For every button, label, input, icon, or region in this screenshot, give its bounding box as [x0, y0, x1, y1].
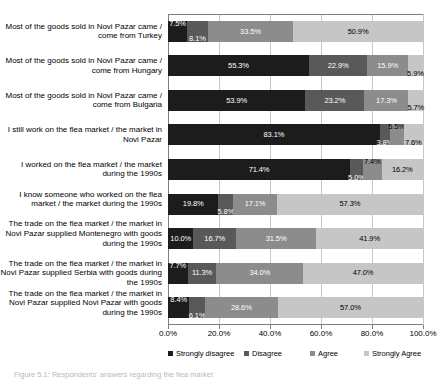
bar-segment: 19.8%	[168, 194, 218, 215]
bar-segment: 17.1%	[233, 194, 277, 215]
bar-segment-label: 22.9%	[328, 62, 349, 70]
chart-legend: Strongly disagreeDisagreeAgreeStrongly A…	[168, 349, 439, 363]
bar-segment: 33.5%	[208, 21, 293, 42]
x-axis-tick-labels: 0.0%20.0%40.0%60.0%80.0%100.0%	[168, 329, 423, 341]
bar-segment-label: 33.5%	[240, 28, 261, 36]
bar-segment: 17.3%	[364, 90, 408, 111]
bar-segment: 23.2%	[305, 90, 364, 111]
bar-segment: 10.0%	[168, 228, 193, 249]
bar-segment: 28.6%	[205, 297, 278, 318]
bar-row: 10.0%16.7%31.5%41.9%	[168, 228, 423, 249]
x-tick-mark	[423, 325, 424, 329]
legend-label: Strongly disagree	[176, 349, 234, 358]
x-tick-label: 20.0%	[208, 329, 231, 339]
bar-segment: 5.7%	[408, 90, 423, 111]
bar-segment: 8.4%	[168, 297, 189, 318]
bar-segment: 6.1%	[189, 297, 205, 318]
category-label: I still work on the flea market / the ma…	[0, 125, 162, 144]
bar-segment-label: 16.2%	[392, 166, 413, 174]
bar-segment-label: 7.7%	[169, 262, 186, 270]
bar-segment: 7.5%	[168, 21, 187, 42]
bar-segment-label: 5.8%	[218, 208, 235, 216]
legend-swatch-icon	[310, 351, 315, 356]
category-label: The trade on the flea market / the marke…	[0, 289, 162, 318]
stacked-bar-chart: Most of the goods sold in Novi Pazar cam…	[0, 0, 439, 382]
bar-segment-label: 83.1%	[264, 131, 285, 139]
bar-segment-label: 5.7%	[407, 104, 424, 112]
x-tick-label: 60.0%	[310, 329, 333, 339]
bar-segment: 5.0%	[350, 159, 363, 180]
gridline	[423, 14, 424, 325]
legend-item[interactable]: Strongly Agree	[364, 349, 421, 358]
bar-segment-label: 31.5%	[266, 235, 287, 243]
x-tick-mark	[168, 325, 169, 329]
category-label: Most of the goods sold in Novi Pazar cam…	[0, 22, 162, 41]
bar-segment: 57.0%	[278, 297, 423, 318]
category-label: The trade on the flea market / the marke…	[0, 219, 162, 248]
x-tick-label: 80.0%	[361, 329, 384, 339]
bar-segment-label: 16.7%	[204, 235, 225, 243]
bar-segment: 71.4%	[168, 159, 350, 180]
bar-row: 7.7%11.3%34.0%47.0%	[168, 263, 423, 284]
legend-label: Disagree	[252, 349, 282, 358]
bar-segment-label: 7.4%	[364, 158, 381, 166]
bar-segment-label: 57.0%	[340, 304, 361, 312]
bar-segment: 53.9%	[168, 90, 305, 111]
bar-segment-label: 19.8%	[183, 200, 204, 208]
bar-segment: 7.6%	[404, 124, 423, 145]
bar-row: 19.8%5.8%17.1%57.3%	[168, 194, 423, 215]
x-tick-label: 100.0%	[409, 329, 436, 339]
bar-segment-label: 41.9%	[359, 235, 380, 243]
legend-swatch-icon	[244, 351, 249, 356]
bar-segment: 34.0%	[216, 263, 303, 284]
bar-segment-label: 8.4%	[170, 296, 187, 304]
category-axis-labels: Most of the goods sold in Novi Pazar cam…	[0, 14, 166, 325]
legend-item[interactable]: Strongly disagree	[168, 349, 234, 358]
bar-segment-label: 57.3%	[340, 200, 361, 208]
legend-swatch-icon	[364, 351, 369, 356]
legend-item[interactable]: Disagree	[244, 349, 282, 358]
bar-segment: 31.5%	[236, 228, 316, 249]
bar-segment-label: 71.4%	[249, 166, 270, 174]
bar-segment: 5.9%	[408, 55, 423, 76]
bar-segment-label: 28.6%	[231, 304, 252, 312]
x-tick-mark	[321, 325, 322, 329]
bar-segment: 16.2%	[382, 159, 423, 180]
bar-segment: 57.3%	[277, 194, 423, 215]
bar-segment: 47.0%	[303, 263, 423, 284]
bar-segment-label: 11.3%	[192, 269, 212, 277]
bar-segment: 7.4%	[363, 159, 382, 180]
bar-segment-label: 17.3%	[376, 97, 397, 105]
bar-segment: 5.5%	[390, 124, 404, 145]
category-label: The trade on the flea market / the marke…	[0, 259, 162, 288]
category-label: I know someone who worked on the flea ma…	[0, 190, 162, 209]
bar-row: 7.5%8.1%33.5%50.9%	[168, 21, 423, 42]
bar-segment-label: 5.5%	[388, 123, 405, 131]
bar-rows: 7.5%8.1%33.5%50.9%55.3%22.9%15.9%5.9%53.…	[168, 14, 423, 325]
category-label: I worked on the flea market / the market…	[0, 160, 162, 179]
bar-segment: 50.9%	[293, 21, 423, 42]
bar-segment: 22.9%	[309, 55, 367, 76]
bar-segment-label: 6.1%	[189, 312, 206, 320]
x-tick-label: 0.0%	[159, 329, 177, 339]
legend-label: Strongly Agree	[372, 349, 421, 358]
bar-segment: 8.1%	[187, 21, 208, 42]
bar-row: 71.4%5.0%7.4%16.2%	[168, 159, 423, 180]
bar-segment: 7.7%	[168, 263, 188, 284]
bar-segment: 11.3%	[188, 263, 217, 284]
bar-segment: 55.3%	[168, 55, 309, 76]
legend-swatch-icon	[168, 351, 173, 356]
bar-segment-label: 8.1%	[189, 35, 206, 43]
bar-segment-label: 50.9%	[348, 28, 369, 36]
figure-caption: Figure 5.1: Respondents' answers regardi…	[14, 370, 424, 380]
bar-segment: 83.1%	[168, 124, 380, 145]
bar-segment-label: 17.1%	[245, 200, 266, 208]
bar-segment-label: 53.9%	[226, 97, 247, 105]
x-tick-mark	[219, 325, 220, 329]
bar-segment-label: 7.6%	[405, 139, 422, 147]
category-label: Most of the goods sold in Novi Pazar cam…	[0, 91, 162, 110]
bar-segment: 41.9%	[316, 228, 423, 249]
bar-row: 8.4%6.1%28.6%57.0%	[168, 297, 423, 318]
bar-segment: 15.9%	[367, 55, 408, 76]
legend-item[interactable]: Agree	[310, 349, 338, 358]
